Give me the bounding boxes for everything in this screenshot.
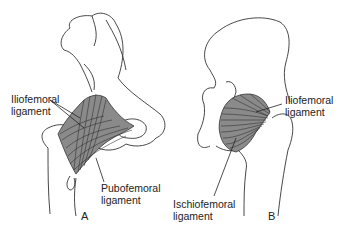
label-ischiofemoral-b: Ischiofemoral ligament bbox=[173, 198, 235, 222]
ischiofemoral-ligament-b bbox=[219, 94, 270, 152]
panel-label-a: A bbox=[81, 210, 88, 222]
label-line: ligament bbox=[11, 105, 59, 117]
label-line: Iliofemoral bbox=[11, 93, 59, 105]
label-line: Iliofemoral bbox=[285, 94, 333, 106]
panel-a-ligaments bbox=[58, 94, 134, 174]
label-line: Pubofemoral bbox=[101, 182, 161, 194]
label-line: ligament bbox=[173, 210, 235, 222]
iliofemoral-ligament-a bbox=[58, 95, 134, 174]
label-pubofemoral-a: Pubofemoral ligament bbox=[101, 182, 161, 206]
label-iliofemoral-b: Iliofemoral ligament bbox=[285, 94, 333, 118]
label-line: Ischiofemoral bbox=[173, 198, 235, 210]
pelvis-b-outline bbox=[205, 18, 290, 102]
panel-label-b: B bbox=[268, 210, 275, 222]
panel-b-ligaments bbox=[219, 94, 270, 152]
label-line: ligament bbox=[101, 194, 161, 206]
label-line: ligament bbox=[285, 106, 333, 118]
label-iliofemoral-a: Iliofemoral ligament bbox=[11, 93, 59, 117]
femur-b-outline bbox=[272, 114, 293, 216]
